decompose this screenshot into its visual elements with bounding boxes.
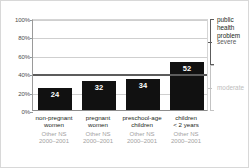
bar-value-label: 32 [82,84,116,92]
y-tick-mark-80 [30,38,33,39]
bracket-title: public health problem [217,16,240,41]
gridline-100 [33,20,207,21]
bar: 24 [38,88,72,110]
bar-value-label: 34 [126,82,160,90]
gridline-60 [33,57,207,58]
x-category-name: children < 2 years [160,114,212,129]
severe-label: severe [217,38,236,46]
bar: 34 [126,79,160,110]
gridline-80 [33,38,207,39]
plot-area: 0%20%40%60%80%100%24323452 [32,19,208,111]
threshold-line-severe [33,74,207,76]
y-tick-mark-60 [30,57,33,58]
y-tick-label: 60% [18,54,30,60]
chart-figure: 0%20%40%60%80%100%24323452 non-pregnant … [0,0,249,168]
y-tick-label: 80% [18,35,30,41]
moderate-label: moderate [217,84,244,92]
bar: 32 [82,81,116,110]
x-axis-labels: non-pregnant womenOther NS2000–2001pregn… [32,114,208,164]
moderate-tick [208,88,212,89]
severe-tick [208,42,212,43]
bar: 52 [170,62,204,110]
y-tick-mark-0 [30,112,33,113]
x-category-source: Other NS [160,131,212,139]
severity-legend: public health problem severe moderate [208,19,249,114]
y-tick-label: 100% [15,17,30,23]
y-tick-label: 40% [18,72,30,78]
bar-value-label: 24 [38,91,72,99]
x-category-label: children < 2 yearsOther NS2000–2001 [160,114,212,146]
y-tick-mark-20 [30,94,33,95]
bar-value-label: 52 [170,65,204,73]
y-tick-label: 20% [18,91,30,97]
x-category-year: 2000–2001 [160,138,212,146]
y-tick-mark-100 [30,20,33,21]
